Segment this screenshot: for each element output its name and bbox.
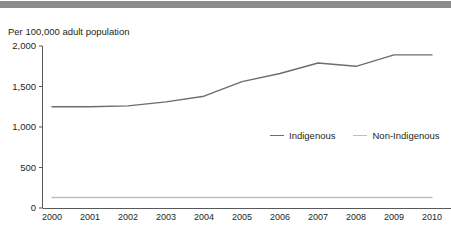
legend-label: Indigenous xyxy=(289,130,335,141)
x-tick-label: 2004 xyxy=(185,212,223,222)
y-tick-label: 1,500 xyxy=(0,82,36,92)
axes xyxy=(43,46,451,209)
legend-item-non-indigenous[interactable]: Non-Indigenous xyxy=(353,130,439,141)
x-tick-label: 2009 xyxy=(375,212,413,222)
chart-legend: IndigenousNon-Indigenous xyxy=(270,130,440,141)
x-tick-label: 2010 xyxy=(413,212,451,222)
legend-label: Non-Indigenous xyxy=(372,130,439,141)
y-axis-tick-marks xyxy=(39,46,43,208)
series-line-indigenous xyxy=(52,55,432,107)
line-chart: 05001,0001,5002,000 20002001200220032004… xyxy=(0,0,451,227)
x-tick-label: 2008 xyxy=(337,212,375,222)
legend-line-swatch-icon xyxy=(353,135,367,136)
y-tick-label: 500 xyxy=(0,163,36,173)
data-series-layer xyxy=(52,55,432,198)
x-tick-label: 2002 xyxy=(109,212,147,222)
y-tick-label: 1,000 xyxy=(0,122,36,132)
x-tick-label: 2000 xyxy=(33,212,71,222)
y-tick-label: 2,000 xyxy=(0,41,36,51)
legend-line-swatch-icon xyxy=(270,135,284,136)
x-tick-label: 2006 xyxy=(261,212,299,222)
legend-item-indigenous[interactable]: Indigenous xyxy=(270,130,335,141)
x-tick-label: 2005 xyxy=(223,212,261,222)
chart-svg xyxy=(0,0,451,227)
y-tick-label: 0 xyxy=(0,203,36,213)
x-tick-label: 2003 xyxy=(147,212,185,222)
x-tick-label: 2007 xyxy=(299,212,337,222)
x-tick-label: 2001 xyxy=(71,212,109,222)
